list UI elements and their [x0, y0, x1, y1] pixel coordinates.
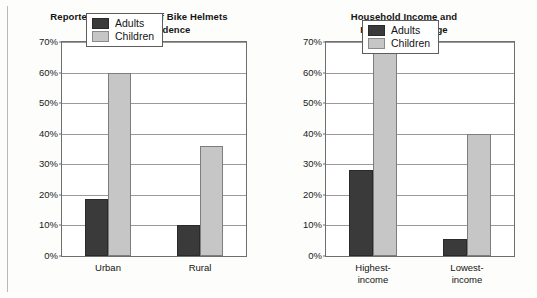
legend-swatch-children-icon: [368, 38, 385, 49]
bar-children-lowest-income: [467, 134, 491, 256]
x-axis-label-highest-income: Highest- income: [355, 262, 390, 285]
y-axis-tick-mark: [59, 225, 62, 226]
gridline: [62, 73, 246, 74]
bar-adults-highest-income: [349, 170, 373, 256]
chart-panel-bike-helmets: Reported Regular Use of Bike Helmets by …: [8, 0, 270, 298]
y-axis-tick-label: 50%: [303, 98, 322, 108]
y-axis-tick-mark: [59, 103, 62, 104]
bar-adults-lowest-income: [443, 239, 467, 256]
y-axis-tick-mark: [323, 42, 326, 43]
y-axis-tick-mark: [323, 194, 326, 195]
y-axis-tick-mark: [323, 164, 326, 165]
gridline: [62, 103, 246, 104]
y-axis-tick-mark: [59, 164, 62, 165]
y-axis-tick-label: 20%: [303, 190, 322, 200]
y-axis-tick-mark: [323, 256, 326, 257]
y-axis-tick-label: 70%: [39, 37, 58, 47]
y-axis-tick-label: 0%: [44, 251, 58, 261]
bar-adults-urban: [85, 199, 108, 256]
y-axis-tick-mark: [323, 133, 326, 134]
figure-page: Reported Regular Use of Bike Helmets by …: [0, 0, 537, 298]
plot-area-right: Highest- income Lowest- income 0%10%20%3…: [325, 41, 515, 257]
y-axis-tick-label: 10%: [303, 220, 322, 230]
y-axis-tick-label: 0%: [308, 251, 322, 261]
x-axis-label-rural: Rural: [189, 262, 212, 274]
chart-panel-household-income: Household Income and Helmet Use by Age H…: [278, 0, 530, 298]
y-axis-tick-label: 60%: [303, 68, 322, 78]
y-axis-tick-label: 70%: [303, 37, 322, 47]
legend-label-children: Children: [391, 38, 430, 49]
y-axis-tick-mark: [59, 194, 62, 195]
y-axis-tick-label: 10%: [39, 220, 58, 230]
legend-left: Adults Children: [86, 13, 163, 47]
x-axis-label-urban: Urban: [95, 262, 121, 274]
legend-label-adults: Adults: [391, 25, 420, 36]
legend-entry-adults: Adults: [92, 18, 154, 29]
legend-entry-children: Children: [92, 31, 154, 42]
bar-children-rural: [200, 146, 223, 256]
legend-entry-adults: Adults: [368, 25, 430, 36]
y-axis-tick-label: 20%: [39, 190, 58, 200]
bar-children-urban: [108, 73, 131, 256]
gridline: [62, 134, 246, 135]
plot-area-left: Urban Rural 0%10%20%30%40%50%60%70%: [61, 41, 247, 257]
gridline: [326, 73, 514, 74]
y-axis-tick-mark: [323, 103, 326, 104]
y-axis-tick-mark: [59, 72, 62, 73]
legend-swatch-adults-icon: [368, 25, 385, 36]
legend-label-children: Children: [115, 31, 154, 42]
y-axis-tick-mark: [59, 42, 62, 43]
y-axis-tick-label: 60%: [39, 68, 58, 78]
legend-label-adults: Adults: [115, 18, 144, 29]
y-axis-tick-label: 30%: [303, 159, 322, 169]
bar-adults-rural: [177, 225, 200, 256]
y-axis-tick-label: 40%: [303, 129, 322, 139]
bar-children-highest-income: [373, 45, 397, 256]
legend-entry-children: Children: [368, 38, 430, 49]
y-axis-tick-mark: [59, 256, 62, 257]
legend-right: Adults Children: [362, 20, 439, 54]
y-axis-tick-label: 30%: [39, 159, 58, 169]
y-axis-tick-mark: [323, 72, 326, 73]
legend-swatch-adults-icon: [92, 18, 109, 29]
legend-swatch-children-icon: [92, 31, 109, 42]
y-axis-tick-label: 40%: [39, 129, 58, 139]
gridline: [326, 103, 514, 104]
y-axis-tick-label: 50%: [39, 98, 58, 108]
x-axis-label-lowest-income: Lowest- income: [450, 262, 483, 285]
y-axis-tick-mark: [323, 225, 326, 226]
y-axis-tick-mark: [59, 133, 62, 134]
